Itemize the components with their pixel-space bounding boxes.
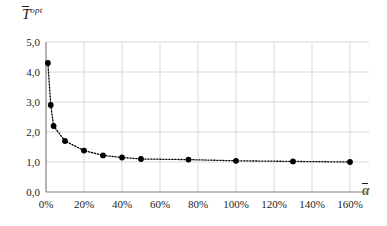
data-point-marker	[119, 155, 125, 161]
data-point-marker	[100, 153, 106, 159]
data-point-marker	[290, 159, 296, 165]
data-point-marker	[48, 102, 54, 108]
data-point-marker	[62, 138, 68, 144]
data-point-marker	[233, 158, 239, 164]
data-point-marker	[45, 60, 51, 66]
series-markers	[45, 60, 353, 165]
data-point-marker	[186, 157, 192, 163]
axis-lines	[46, 42, 369, 192]
series-polyline	[48, 63, 350, 162]
chart-figure: Topt α 5,0 4,0 3,0 2,0 1,0 0,0 0% 20% 40…	[0, 0, 387, 226]
data-point-marker	[51, 123, 57, 129]
data-point-marker	[347, 159, 353, 165]
data-point-marker	[81, 148, 87, 154]
gridlines	[46, 42, 369, 192]
series-line	[48, 63, 350, 162]
data-point-marker	[138, 156, 144, 162]
plot-area	[0, 0, 387, 226]
